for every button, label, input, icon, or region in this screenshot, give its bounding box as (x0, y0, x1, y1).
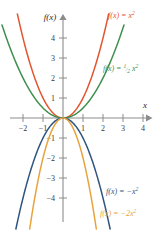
y-tick-label: 1 (51, 94, 55, 103)
parabola-plot: −2 −1 1 2 3 4 4 3 2 1 −1 −2 −3 −4 x f(x) (0, 0, 160, 231)
y-tick-label: −2 (46, 154, 55, 163)
curve-label-negative-two-x-squared: f(x) = −2x2 (100, 208, 136, 218)
x-tick-label: 2 (101, 124, 105, 133)
y-tick-label: 4 (51, 34, 55, 43)
x-axis (10, 114, 153, 121)
figure-canvas: −2 −1 1 2 3 4 4 3 2 1 −1 −2 −3 −4 x f(x) (0, 0, 160, 231)
x-tick-label: −2 (19, 124, 28, 133)
x-tick-label: 3 (121, 124, 125, 133)
y-axis-label: f(x) (44, 12, 57, 22)
curve-labels-group: f(x) = x2 f(x) = 1∕2 x2 f(x) = −x2 f(x) … (100, 10, 138, 218)
curve-label-x-squared: f(x) = x2 (108, 10, 135, 20)
curve-label-half-x-squared: f(x) = 1∕2 x2 (103, 63, 138, 74)
y-tick-label: −4 (46, 194, 55, 203)
y-tick-label: −3 (46, 174, 55, 183)
x-tick-labels: −2 −1 1 2 3 4 (19, 124, 145, 133)
y-tick-label: 3 (51, 54, 55, 63)
y-tick-label: 2 (51, 74, 55, 83)
x-tick-label: 1 (81, 124, 85, 133)
x-axis-label: x (142, 100, 147, 110)
curve-label-negative-x-squared: f(x) = −x2 (106, 186, 138, 196)
x-tick-label: 4 (141, 124, 145, 133)
